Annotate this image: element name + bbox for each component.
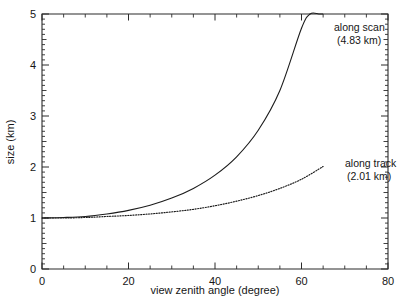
x-tick-label: 60 bbox=[295, 275, 307, 287]
plot-frame bbox=[42, 14, 388, 269]
y-axis-ticks bbox=[42, 14, 388, 269]
annotation-along-track-name: along track bbox=[345, 157, 397, 169]
y-tick-label: 3 bbox=[30, 110, 36, 122]
x-tick-label: 20 bbox=[122, 275, 134, 287]
y-tick-label: 1 bbox=[30, 212, 36, 224]
series-line-along-track bbox=[42, 166, 323, 218]
x-tick-label: 0 bbox=[39, 275, 45, 287]
y-tick-label: 2 bbox=[30, 161, 36, 173]
x-axis-ticks bbox=[42, 14, 388, 269]
y-axis-tick-labels: 012345 bbox=[30, 8, 36, 275]
annotation-along-track-value: (2.01 km) bbox=[347, 170, 391, 182]
series-line-along-scan bbox=[42, 13, 323, 218]
y-tick-label: 4 bbox=[30, 59, 36, 71]
y-axis-title: size (km) bbox=[4, 120, 16, 165]
y-tick-label: 5 bbox=[30, 8, 36, 20]
y-tick-label: 0 bbox=[30, 263, 36, 275]
annotation-along-scan-value: (4.83 km) bbox=[337, 34, 381, 46]
x-axis-title: view zenith angle (degree) bbox=[150, 284, 279, 296]
x-tick-label: 80 bbox=[382, 275, 394, 287]
figure-canvas: 012345 020406080 view zenith angle (degr… bbox=[0, 0, 408, 304]
annotation-along-scan-name: along scan bbox=[334, 21, 385, 33]
